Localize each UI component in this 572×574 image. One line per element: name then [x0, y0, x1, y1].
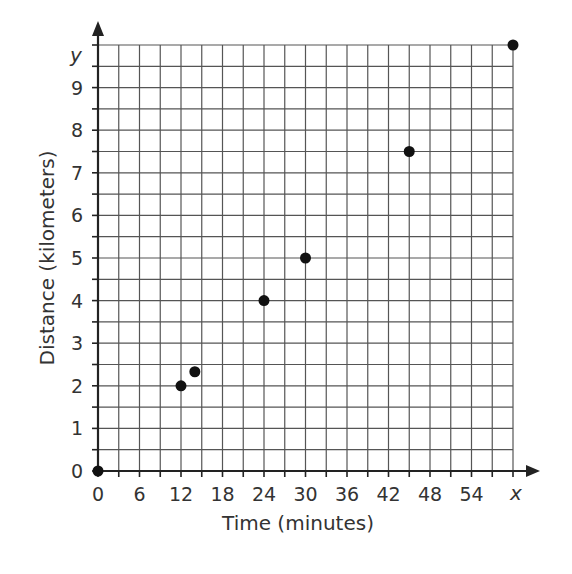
x-tick-label: 12 — [169, 483, 193, 505]
x-tick-labels: 061218243036424854 — [92, 483, 484, 505]
scatter-chart: 061218243036424854 0123456789 y x Time (… — [0, 0, 572, 574]
x-axis-title: Time (minutes) — [221, 511, 374, 535]
x-tick-label: 42 — [376, 483, 400, 505]
y-tick-label: 1 — [71, 417, 83, 439]
y-tick-label: 5 — [71, 247, 83, 269]
data-point — [189, 366, 200, 377]
data-point — [93, 466, 104, 477]
y-tick-label: 2 — [71, 375, 83, 397]
data-point — [259, 295, 270, 306]
x-tick-label: 54 — [459, 483, 483, 505]
x-axis-variable: x — [509, 481, 522, 505]
y-tick-label: 4 — [71, 290, 83, 312]
data-point — [300, 253, 311, 264]
x-tick-label: 18 — [210, 483, 234, 505]
x-tick-label: 30 — [293, 483, 317, 505]
axes — [92, 21, 540, 477]
y-axis-title: Distance (kilometers) — [35, 151, 59, 366]
x-tick-label: 0 — [92, 483, 104, 505]
data-point — [176, 380, 187, 391]
y-tick-label: 3 — [71, 332, 83, 354]
x-tick-label: 24 — [252, 483, 276, 505]
y-tick-label: 0 — [71, 460, 83, 482]
data-point — [508, 40, 519, 51]
x-tick-label: 48 — [418, 483, 442, 505]
x-tick-label: 6 — [133, 483, 145, 505]
y-tick-label: 8 — [71, 119, 83, 141]
y-tick-label: 6 — [71, 204, 83, 226]
y-axis-arrow-icon — [92, 21, 104, 36]
x-axis-arrow-icon — [526, 465, 540, 477]
y-tick-label: 9 — [71, 77, 83, 99]
data-point — [404, 146, 415, 157]
y-tick-label: 7 — [71, 162, 83, 184]
y-axis-variable: y — [69, 43, 83, 67]
x-tick-label: 36 — [335, 483, 359, 505]
y-tick-labels: 0123456789 — [71, 77, 83, 482]
